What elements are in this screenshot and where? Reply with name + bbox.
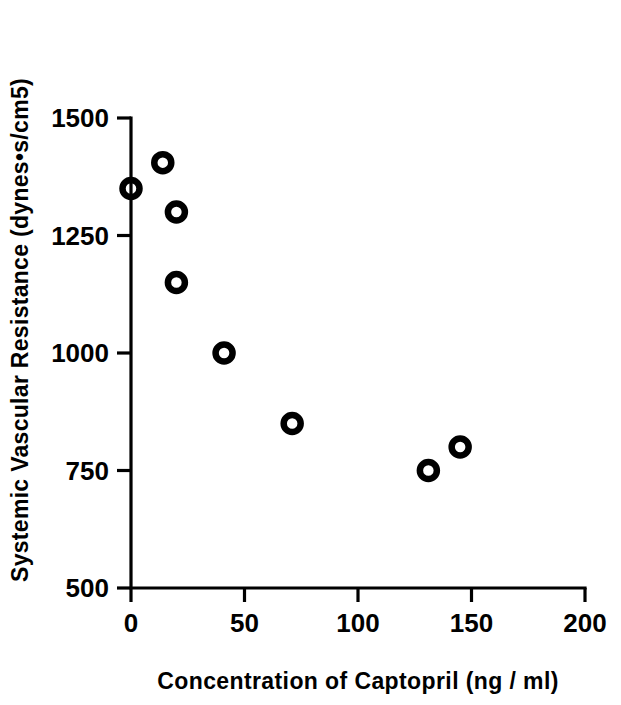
x-tick-label: 100	[336, 608, 379, 638]
x-tick-label: 50	[230, 608, 259, 638]
data-point-marker	[168, 274, 185, 291]
axis-group	[131, 118, 585, 588]
data-point-marker	[284, 415, 301, 432]
y-tick-label: 500	[66, 573, 109, 603]
data-point-marker	[168, 204, 185, 221]
y-tick-group: 500750100012501500	[51, 103, 131, 603]
axis-spines	[131, 118, 585, 588]
y-tick-label: 750	[66, 456, 109, 486]
y-tick-label: 1250	[51, 221, 109, 251]
data-point-marker	[452, 439, 469, 456]
x-tick-group: 050100150200	[124, 588, 607, 638]
y-tick-label: 1500	[51, 103, 109, 133]
data-point-marker	[420, 462, 437, 479]
x-tick-label: 0	[124, 608, 138, 638]
y-tick-label: 1000	[51, 338, 109, 368]
y-axis-title: Systemic Vascular Resistance (dynes•s/cm…	[0, 0, 40, 660]
scatter-plot-figure: Systemic Vascular Resistance (dynes•s/cm…	[0, 0, 621, 705]
x-axis-title: Concentration of Captopril (ng / ml)	[95, 668, 621, 695]
x-tick-label: 200	[563, 608, 606, 638]
data-point-marker	[154, 154, 171, 171]
plot-area: 500750100012501500 050100150200	[40, 95, 621, 640]
data-point-marker	[216, 345, 233, 362]
data-points-group	[123, 154, 469, 479]
x-tick-label: 150	[450, 608, 493, 638]
